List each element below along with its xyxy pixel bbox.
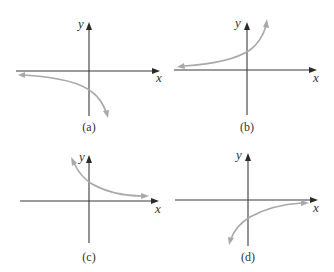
caption: (b): [240, 120, 254, 134]
curve-arrow-left-icon: [177, 63, 185, 69]
y-axis-arrow-icon: [86, 155, 92, 163]
curve: [231, 203, 302, 239]
x-label: x: [312, 200, 319, 215]
x-label: x: [155, 70, 162, 85]
curve: [74, 163, 142, 196]
y-label: y: [233, 15, 241, 30]
curve-arrow-left-icon: [18, 72, 25, 78]
curve-arrow-right-icon: [141, 193, 149, 199]
panel-c: x y (c): [20, 149, 161, 264]
caption: (d): [241, 250, 255, 264]
panel-d: x y (d): [175, 147, 319, 264]
curve-arrow-right-icon: [301, 200, 309, 206]
y-axis-arrow-icon: [245, 153, 251, 161]
y-label: y: [234, 147, 242, 162]
x-label: x: [312, 70, 319, 85]
curve: [184, 26, 266, 66]
curve-arrow-left-icon: [71, 157, 77, 166]
curve: [24, 75, 106, 112]
y-label: y: [77, 149, 85, 164]
curve-arrow-right-icon: [263, 19, 269, 28]
panel-a: x y (a): [16, 16, 162, 134]
y-label: y: [76, 16, 84, 31]
curve-arrow-right-icon: [103, 110, 109, 118]
y-axis-arrow-icon: [244, 22, 250, 30]
caption: (c): [82, 250, 95, 264]
y-axis-arrow-icon: [86, 22, 92, 30]
panel-b: x y (b): [174, 15, 319, 134]
curve-arrow-left-icon: [228, 237, 234, 245]
caption: (a): [82, 120, 95, 134]
x-label: x: [154, 201, 161, 216]
figure-canvas: x y (a) x y (b) x y (c) x: [0, 0, 334, 272]
